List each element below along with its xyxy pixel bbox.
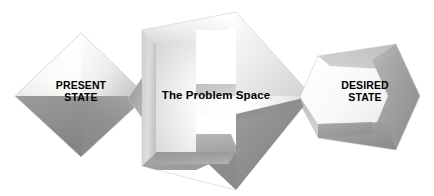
- arrow-notch-upper-shade: [196, 84, 236, 96]
- problem-space-diagram: [0, 0, 434, 196]
- shape-problem-space: [128, 12, 312, 190]
- arrow-left-side-face: [142, 30, 156, 166]
- diagram-canvas: PRESENT STATE The Problem Space DESIRED …: [0, 0, 434, 196]
- arrow-notch-lower-shade: [150, 152, 236, 164]
- shape-present-state: [15, 33, 147, 157]
- shape-desired-state: [300, 44, 420, 150]
